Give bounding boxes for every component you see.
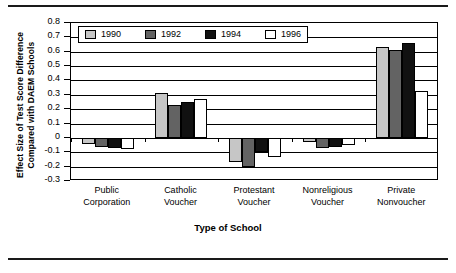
- x-axis-tick-mark: [365, 138, 366, 142]
- y-axis-tick-label: 0.5: [20, 60, 60, 69]
- bar-1994-public-corporation: [108, 138, 121, 148]
- legend-item-1992: 1992: [145, 30, 181, 39]
- x-axis-label-public-corporation: PublicCorporation: [65, 184, 149, 208]
- legend-swatch-1996: [265, 30, 276, 39]
- legend-label-1990: 1990: [101, 30, 121, 39]
- x-axis-label-line: Private: [359, 184, 443, 196]
- x-axis-title: Type of School: [0, 222, 456, 233]
- bar-1996-private-nonvoucher: [415, 91, 428, 138]
- x-axis-label-line: Catholic: [138, 184, 222, 196]
- legend-label-1992: 1992: [161, 30, 181, 39]
- x-axis-label-line: Voucher: [212, 196, 296, 208]
- legend-label-1996: 1996: [281, 30, 301, 39]
- x-axis-label-line: Corporation: [65, 196, 149, 208]
- y-axis-tick-label: 0.3: [20, 89, 60, 98]
- y-axis-tick-label: 0.2: [20, 103, 60, 112]
- bottom-divider-rule: [8, 258, 448, 260]
- legend-swatch-1994: [205, 30, 216, 39]
- chart-legend: 1990 1992 1994 1996: [78, 26, 308, 43]
- bar-1992-catholic-voucher: [168, 105, 181, 138]
- x-axis-label-line: Nonvoucher: [359, 196, 443, 208]
- legend-item-1994: 1994: [205, 30, 241, 39]
- bar-1992-private-nonvoucher: [389, 50, 402, 138]
- bar-1994-nonreligious-voucher: [329, 138, 342, 147]
- bar-1996-nonreligious-voucher: [342, 138, 355, 145]
- bar-1990-private-nonvoucher: [376, 47, 389, 137]
- y-axis-tick-label: 0.8: [20, 17, 60, 26]
- x-axis-label-private-nonvoucher: PrivateNonvoucher: [359, 184, 443, 208]
- y-axis-tick-label: 0.4: [20, 74, 60, 83]
- x-axis-label-line: Protestant: [212, 184, 296, 196]
- y-axis-tick-label: 0: [20, 132, 60, 141]
- legend-label-1994: 1994: [221, 30, 241, 39]
- y-axis-tick-label: 0.6: [20, 46, 60, 55]
- y-axis-tick-label: 0.1: [20, 118, 60, 127]
- x-axis-label-protestant-voucher: ProtestantVoucher: [212, 184, 296, 208]
- bar-1992-protestant-voucher: [242, 138, 255, 167]
- x-axis-label-line: Voucher: [138, 196, 222, 208]
- bar-1990-nonreligious-voucher: [303, 138, 316, 142]
- gridline: [71, 167, 437, 168]
- chart-figure: Effect Size of Test Score Difference Com…: [0, 0, 456, 273]
- y-axis-tick-label: -0.2: [20, 161, 60, 170]
- x-axis-tick-mark: [71, 138, 72, 142]
- bar-1996-public-corporation: [121, 138, 134, 149]
- y-axis-tick-label: -0.3: [20, 175, 60, 184]
- bar-1990-public-corporation: [82, 138, 95, 144]
- bar-1992-nonreligious-voucher: [316, 138, 329, 148]
- x-axis-label-catholic-voucher: CatholicVoucher: [138, 184, 222, 208]
- bar-1992-public-corporation: [95, 138, 108, 147]
- legend-item-1996: 1996: [265, 30, 301, 39]
- bar-1990-protestant-voucher: [229, 138, 242, 162]
- bar-1996-protestant-voucher: [268, 138, 281, 157]
- bar-1990-catholic-voucher: [155, 93, 168, 138]
- bar-1994-protestant-voucher: [255, 138, 268, 152]
- bar-1994-private-nonvoucher: [402, 43, 415, 138]
- bar-1994-catholic-voucher: [181, 102, 194, 138]
- top-divider-rule: [8, 5, 448, 7]
- y-axis-tick-mark: [64, 180, 70, 181]
- x-axis-tick-mark: [218, 138, 219, 142]
- x-axis-label-nonreligious-voucher: NonreligiousVoucher: [286, 184, 370, 208]
- bar-1996-catholic-voucher: [194, 99, 207, 138]
- x-axis-label-line: Public: [65, 184, 149, 196]
- legend-swatch-1990: [85, 30, 96, 39]
- x-axis-label-line: Voucher: [286, 196, 370, 208]
- x-axis-tick-mark: [292, 138, 293, 142]
- y-axis-tick-label: 0.7: [20, 31, 60, 40]
- y-axis-tick-label: -0.1: [20, 146, 60, 155]
- legend-swatch-1992: [145, 30, 156, 39]
- x-axis-label-line: Nonreligious: [286, 184, 370, 196]
- plot-area: [70, 22, 438, 180]
- x-axis-tick-mark: [145, 138, 146, 142]
- legend-item-1990: 1990: [85, 30, 121, 39]
